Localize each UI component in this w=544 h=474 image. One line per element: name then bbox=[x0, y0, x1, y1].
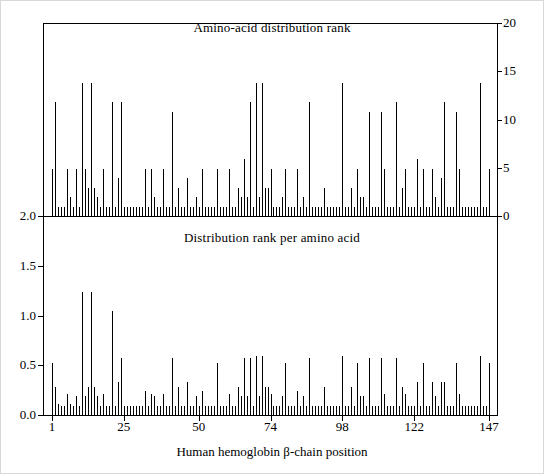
bar bbox=[163, 169, 164, 217]
bar bbox=[294, 406, 295, 416]
bar bbox=[480, 356, 481, 415]
y-tickmark-right bbox=[497, 216, 502, 217]
bar bbox=[226, 207, 227, 217]
bar bbox=[321, 207, 322, 217]
y-tickmark-left bbox=[38, 266, 43, 267]
bar bbox=[309, 358, 310, 415]
bar bbox=[480, 83, 481, 216]
bar bbox=[145, 391, 146, 415]
bar bbox=[202, 169, 203, 217]
bar bbox=[300, 207, 301, 217]
bar bbox=[214, 207, 215, 217]
bar bbox=[456, 363, 457, 415]
bar bbox=[372, 406, 373, 416]
bar bbox=[390, 406, 391, 416]
bar bbox=[273, 406, 274, 416]
bar bbox=[414, 207, 415, 217]
bar bbox=[85, 396, 86, 415]
bar bbox=[160, 406, 161, 416]
bar bbox=[312, 406, 313, 416]
bar bbox=[408, 406, 409, 416]
bar bbox=[489, 169, 490, 217]
bar bbox=[444, 382, 445, 415]
bar bbox=[309, 102, 310, 216]
x-tick: 50 bbox=[179, 420, 219, 433]
bar bbox=[148, 406, 149, 416]
bar bbox=[169, 406, 170, 416]
bar bbox=[291, 406, 292, 416]
bar bbox=[330, 406, 331, 416]
bar bbox=[103, 169, 104, 217]
bar bbox=[253, 207, 254, 217]
bar bbox=[109, 207, 110, 217]
bar bbox=[366, 207, 367, 217]
bar bbox=[262, 83, 263, 216]
bar bbox=[375, 207, 376, 217]
bar bbox=[112, 102, 113, 216]
bar-series-top bbox=[44, 24, 497, 216]
bar bbox=[151, 169, 152, 217]
bar bbox=[462, 207, 463, 217]
y-tick-left: 0.5 bbox=[0, 358, 36, 371]
bar bbox=[429, 406, 430, 416]
bar bbox=[330, 207, 331, 217]
bar bbox=[241, 197, 242, 216]
bar bbox=[181, 207, 182, 217]
bar bbox=[103, 394, 104, 415]
bar bbox=[405, 394, 406, 415]
bar bbox=[205, 207, 206, 217]
bar bbox=[363, 197, 364, 216]
bar bbox=[315, 207, 316, 217]
bar bbox=[486, 207, 487, 217]
bar bbox=[435, 197, 436, 216]
bar bbox=[324, 387, 325, 416]
bar bbox=[381, 358, 382, 415]
bar bbox=[396, 102, 397, 216]
bar bbox=[154, 197, 155, 216]
bar bbox=[259, 396, 260, 415]
bar bbox=[241, 396, 242, 415]
bar bbox=[196, 197, 197, 216]
bar bbox=[256, 83, 257, 216]
bar bbox=[390, 207, 391, 217]
bar bbox=[244, 159, 245, 216]
bar bbox=[288, 207, 289, 217]
bar bbox=[342, 356, 343, 415]
bar bbox=[208, 207, 209, 217]
bar bbox=[205, 406, 206, 416]
bar bbox=[112, 311, 113, 416]
y-tickmark-left bbox=[38, 365, 43, 366]
bar bbox=[378, 406, 379, 416]
bar bbox=[393, 207, 394, 217]
bar bbox=[318, 207, 319, 217]
bar bbox=[193, 406, 194, 416]
bar bbox=[387, 207, 388, 217]
bar bbox=[303, 396, 304, 415]
bar bbox=[247, 197, 248, 216]
bar bbox=[477, 406, 478, 416]
bar bbox=[426, 406, 427, 416]
bar bbox=[67, 169, 68, 217]
x-tickmark bbox=[342, 416, 343, 421]
bar bbox=[423, 169, 424, 217]
x-tickmark bbox=[489, 416, 490, 421]
bar bbox=[432, 169, 433, 217]
y-tickmark-left bbox=[38, 415, 43, 416]
bar bbox=[465, 207, 466, 217]
bar bbox=[342, 83, 343, 216]
bar bbox=[447, 406, 448, 416]
bar bbox=[273, 207, 274, 217]
y-tick-left: 1.0 bbox=[0, 309, 36, 322]
bar bbox=[79, 406, 80, 416]
bar bbox=[64, 406, 65, 416]
bar bbox=[318, 406, 319, 416]
bar bbox=[327, 207, 328, 217]
bar bbox=[333, 406, 334, 416]
bar bbox=[483, 207, 484, 217]
bar bbox=[489, 363, 490, 415]
y-tick-right: 0 bbox=[503, 209, 539, 222]
x-tick: 25 bbox=[104, 420, 144, 433]
bar bbox=[247, 396, 248, 415]
bar bbox=[417, 159, 418, 216]
y-tick-right: 15 bbox=[503, 64, 539, 77]
